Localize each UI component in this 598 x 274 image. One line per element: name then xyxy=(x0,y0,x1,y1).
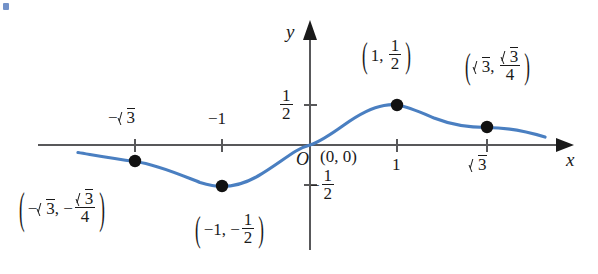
x-tick-label-one: 1 xyxy=(392,156,401,173)
point-label-local-minimum: ( −1 , − 1 2 ) xyxy=(192,212,267,248)
paren-left: ( xyxy=(19,186,25,230)
paren-right: ) xyxy=(405,38,411,74)
point-local-minimum xyxy=(216,180,228,192)
radical-icon: 3 xyxy=(119,108,136,126)
point-local-maximum xyxy=(391,99,403,111)
x-tick-label-neg-one: −1 xyxy=(208,110,226,127)
graph-canvas xyxy=(0,0,598,274)
y-tick-label-half: 1 2 xyxy=(279,88,294,124)
comma: , xyxy=(55,200,64,217)
radical-icon: 3 xyxy=(77,189,94,207)
origin-label: O xyxy=(296,150,309,168)
radical-icon: 3 xyxy=(38,199,55,217)
y-tick-label-neg-half: − 1 2 xyxy=(310,168,335,204)
radical-icon: 3 xyxy=(470,155,487,173)
radical-icon: 3 xyxy=(502,47,519,65)
paren-left: ( xyxy=(465,48,471,84)
minus-sign: − xyxy=(108,109,118,126)
paren-right: ) xyxy=(99,186,105,230)
y-axis-label: y xyxy=(286,22,294,41)
fraction: 1 2 xyxy=(242,211,255,247)
point-label-inflection-right: ( 3 , 3 4 ) xyxy=(462,48,533,85)
comma: , xyxy=(490,58,499,75)
fraction: 1 2 xyxy=(280,87,293,123)
fraction: 3 4 xyxy=(500,47,521,84)
comma: , xyxy=(222,221,231,238)
fraction: 1 2 xyxy=(389,37,402,73)
x-axis-label: x xyxy=(566,150,574,169)
paren-left: ( xyxy=(362,38,368,74)
fraction: 1 2 xyxy=(322,167,335,203)
point-label-origin: (0, 0) xyxy=(320,148,357,165)
point-inflection-left xyxy=(129,155,141,167)
comma: , xyxy=(379,47,388,64)
math-graph-figure: y x O −3 −1 1 3 1 2 − 1 2 (0, 0) ( 1 , xyxy=(0,0,598,274)
radical-icon: 3 xyxy=(474,57,491,75)
paren-right: ) xyxy=(524,48,530,84)
fraction: 3 4 xyxy=(75,189,96,226)
paren-left: ( xyxy=(195,212,201,248)
x-tick-label-neg-sqrt3: −3 xyxy=(108,108,135,126)
minus-sign: − xyxy=(230,221,240,238)
point-inflection-right xyxy=(481,121,493,133)
paren-right: ) xyxy=(258,212,264,248)
point-label-local-maximum: ( 1 , 1 2 ) xyxy=(359,38,414,74)
minus-sign: − xyxy=(310,177,320,194)
minus-sign: − xyxy=(63,200,73,217)
y-axis xyxy=(303,20,317,250)
point-label-inflection-left: ( − 3 , − 3 4 ) xyxy=(16,190,108,227)
x-tick-label-sqrt3: 3 xyxy=(470,155,487,173)
